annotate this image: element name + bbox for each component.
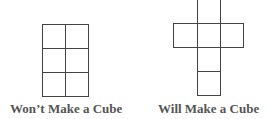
square xyxy=(197,71,221,96)
non-cube-label: Won’t Make a Cube xyxy=(10,101,122,117)
square xyxy=(42,24,66,49)
square xyxy=(197,23,221,48)
cube-label: Will Make a Cube xyxy=(158,101,259,117)
square xyxy=(173,23,198,48)
square xyxy=(65,72,89,97)
square xyxy=(197,0,221,24)
square xyxy=(65,48,89,73)
square xyxy=(42,48,66,73)
square xyxy=(220,23,244,48)
square xyxy=(42,72,66,97)
square xyxy=(197,47,221,72)
square xyxy=(65,24,89,49)
